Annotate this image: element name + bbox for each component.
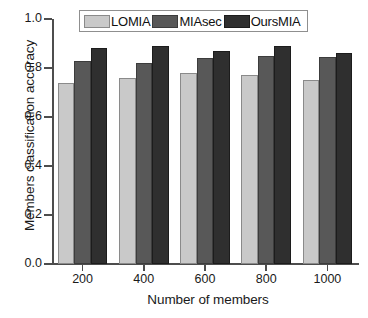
y-tick-mark xyxy=(44,214,52,216)
y-tick-label: 0.6 xyxy=(0,109,42,123)
bar-oursmia-200 xyxy=(91,48,108,264)
y-tick-mark xyxy=(44,18,52,20)
legend-label: LOMIA xyxy=(111,14,152,29)
x-tick-label: 200 xyxy=(53,272,113,286)
x-tick-mark xyxy=(143,265,145,271)
plot-area xyxy=(52,19,358,264)
x-tick-label: 400 xyxy=(114,272,174,286)
bar-lomia-1000 xyxy=(303,80,320,264)
y-tick-label: 0.4 xyxy=(0,158,42,172)
legend-entry-miasec[interactable]: MIAsec xyxy=(152,14,223,29)
x-tick-mark xyxy=(82,265,84,271)
x-tick-mark xyxy=(327,265,329,271)
y-tick-label: 0.0 xyxy=(0,256,42,270)
bar-miasec-1000 xyxy=(319,57,336,264)
y-tick-mark xyxy=(44,263,52,265)
x-tick-mark xyxy=(204,265,206,271)
bar-oursmia-800 xyxy=(274,46,291,264)
bar-oursmia-600 xyxy=(213,51,230,264)
x-axis-title: Number of members xyxy=(52,292,364,307)
y-tick-mark xyxy=(44,165,52,167)
y-axis-title: Members classification accuracy xyxy=(22,11,37,261)
x-tick-label: 1000 xyxy=(297,272,357,286)
x-tick-label: 600 xyxy=(175,272,235,286)
bar-lomia-800 xyxy=(241,75,258,264)
legend-swatch-icon xyxy=(224,15,250,28)
legend: LOMIAMIAsecOursMIA xyxy=(79,10,308,32)
legend-swatch-icon xyxy=(84,15,110,28)
bar-miasec-600 xyxy=(197,58,214,264)
bar-lomia-200 xyxy=(58,83,75,264)
y-tick-label: 0.8 xyxy=(0,60,42,74)
bar-miasec-400 xyxy=(136,63,153,264)
bar-lomia-600 xyxy=(180,73,197,264)
legend-swatch-icon xyxy=(152,15,178,28)
bar-miasec-200 xyxy=(74,61,91,264)
bar-lomia-400 xyxy=(119,78,136,264)
y-tick-mark xyxy=(44,116,52,118)
legend-entry-oursmia[interactable]: OursMIA xyxy=(224,14,303,29)
y-tick-label: 0.2 xyxy=(0,207,42,221)
x-tick-mark xyxy=(265,265,267,271)
legend-entry-lomia[interactable]: LOMIA xyxy=(84,14,152,29)
bar-chart: Members classification accuracy Number o… xyxy=(0,0,368,318)
bar-oursmia-400 xyxy=(152,46,169,264)
legend-label: OursMIA xyxy=(251,14,303,29)
bar-oursmia-1000 xyxy=(336,53,353,264)
y-tick-mark xyxy=(44,67,52,69)
y-tick-label: 1.0 xyxy=(0,11,42,25)
bar-miasec-800 xyxy=(258,56,275,264)
legend-label: MIAsec xyxy=(179,14,223,29)
x-tick-label: 800 xyxy=(236,272,296,286)
